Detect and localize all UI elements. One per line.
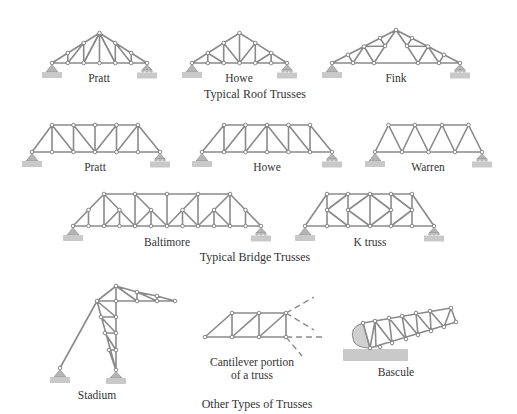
label-roof-howe: Howe [225, 72, 252, 85]
roller-support-icon [150, 154, 170, 168]
label-bridge-baltimore: Baltimore [144, 236, 190, 249]
stadium-truss [50, 284, 177, 384]
pin-support-icon [106, 372, 126, 385]
label-bascule: Bascule [378, 366, 414, 379]
caption-other-trusses: Other Types of Trusses [202, 397, 313, 412]
pin-support-icon [22, 154, 42, 168]
roller-support-icon [424, 228, 444, 242]
roller-support-icon [472, 154, 492, 168]
label-bridge-k-truss: K truss [354, 236, 387, 249]
bridge-k-truss [295, 192, 444, 241]
label-roof-fink: Fink [385, 72, 406, 85]
cantilever-truss [203, 297, 322, 356]
bridge-baltimore-truss [63, 192, 271, 241]
pin-support-icon [182, 65, 202, 79]
label-bridge-warren: Warren [411, 161, 445, 174]
caption-bridge-trusses: Typical Bridge Trusses [200, 250, 311, 265]
pin-support-icon [192, 154, 212, 168]
roller-support-icon [450, 65, 470, 79]
pin-support-icon [365, 154, 385, 168]
pin-support-icon [42, 65, 62, 79]
pin-support-icon [50, 370, 70, 384]
roof-fink-truss [322, 28, 470, 78]
truss-diagram [0, 0, 517, 414]
label-cantilever: Cantilever portion of a truss [210, 356, 294, 382]
label-cantilever-line2: of a truss [210, 369, 294, 382]
pin-support-icon [322, 65, 342, 79]
label-stadium: Stadium [78, 389, 116, 402]
label-cantilever-line1: Cantilever portion [210, 356, 294, 369]
roller-support-icon [137, 65, 157, 79]
caption-roof-trusses: Typical Roof Trusses [204, 87, 306, 102]
pin-support-icon [295, 228, 315, 242]
label-bridge-pratt: Pratt [84, 161, 106, 174]
label-bridge-howe: Howe [253, 161, 280, 174]
pin-support-icon [63, 228, 83, 242]
bascule-truss [343, 306, 458, 361]
roller-support-icon [322, 154, 342, 168]
roller-support-icon [277, 65, 297, 79]
roller-support-icon [251, 228, 271, 242]
label-roof-pratt: Pratt [88, 72, 110, 85]
